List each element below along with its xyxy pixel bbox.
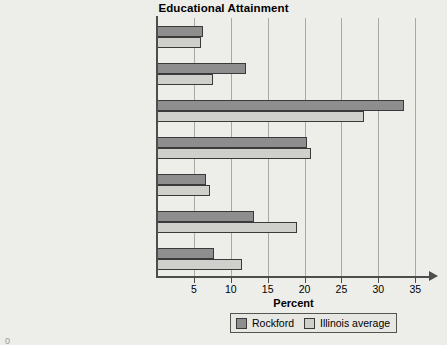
bar-group <box>157 26 430 48</box>
bar <box>157 63 246 74</box>
bar <box>157 259 242 270</box>
legend-label-illinois-average: Illinois average <box>320 317 390 329</box>
plot-area <box>157 18 430 276</box>
x-tick-label: 35 <box>403 283 427 295</box>
x-tick-label: 20 <box>293 283 317 295</box>
x-tick-label: 30 <box>366 283 390 295</box>
bar <box>157 148 311 159</box>
bar-group <box>157 63 430 85</box>
bar <box>157 111 364 122</box>
bar <box>157 185 210 196</box>
bar-group <box>157 174 430 196</box>
bar <box>157 137 307 148</box>
x-axis-line <box>156 276 430 278</box>
bar-group <box>157 211 430 233</box>
corner-mark: 0 <box>5 336 10 345</box>
bar <box>157 248 214 259</box>
bar-group <box>157 100 430 122</box>
x-tick-label: 10 <box>219 283 243 295</box>
legend-label-rockford: Rockford <box>252 317 294 329</box>
x-axis-label: Percent <box>157 297 430 309</box>
x-tick-label: 25 <box>329 283 353 295</box>
x-tick-label: 15 <box>256 283 280 295</box>
bar <box>157 26 203 37</box>
chart-title: Educational Attainment <box>0 2 447 14</box>
legend: Rockford Illinois average <box>230 313 397 333</box>
bar <box>157 74 213 85</box>
legend-entry-illinois-average: Illinois average <box>304 317 390 329</box>
bar <box>157 174 206 185</box>
bar <box>157 37 201 48</box>
x-tick-label: 5 <box>182 283 206 295</box>
educational-attainment-chart: Educational Attainment Percent Rockford … <box>0 0 447 345</box>
bar <box>157 222 297 233</box>
x-axis-arrow-icon <box>429 271 438 281</box>
legend-swatch-rockford <box>236 318 247 329</box>
legend-swatch-illinois-average <box>304 318 315 329</box>
y-axis-line <box>156 16 158 278</box>
bar <box>157 100 404 111</box>
bar-group <box>157 248 430 270</box>
legend-entry-rockford: Rockford <box>236 317 294 329</box>
bar <box>157 211 254 222</box>
bar-group <box>157 137 430 159</box>
